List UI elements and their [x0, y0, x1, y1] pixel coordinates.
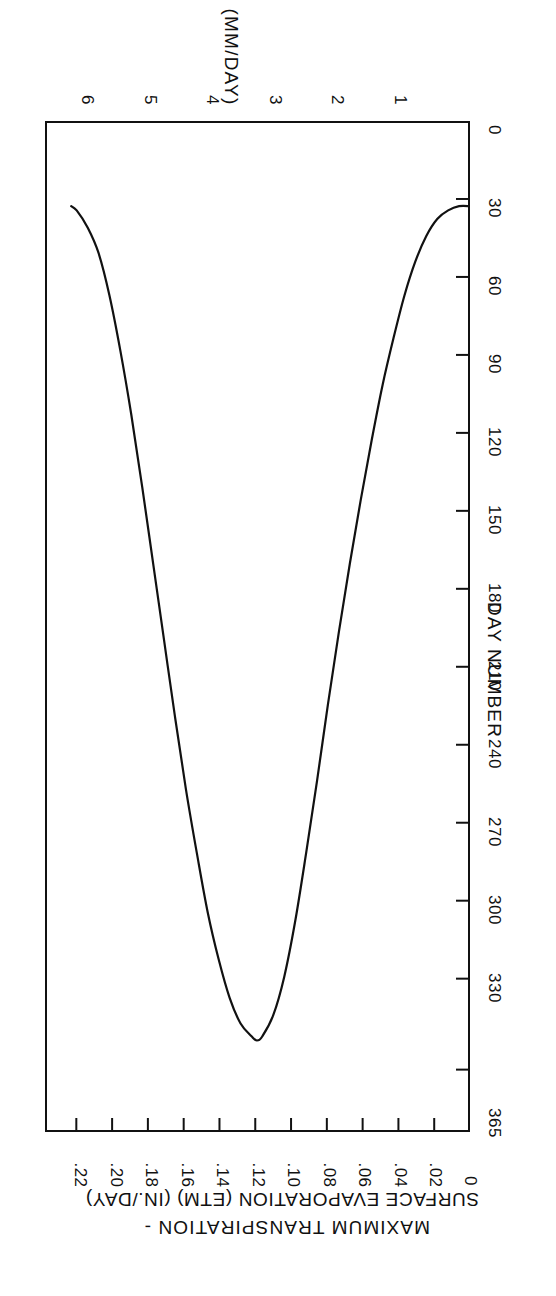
- value-tick-label: .10: [283, 1162, 303, 1187]
- value-tick-label: .18: [141, 1162, 161, 1187]
- rotated-figure-container: 0 .02 .04 .06 .08 .10 .12 .14 .16 .18 .2…: [0, 0, 556, 1296]
- value-tick-label: 0: [460, 1176, 480, 1186]
- chart-figure: 0 .02 .04 .06 .08 .10 .12 .14 .16 .18 .2…: [0, 0, 556, 1296]
- day-tick-label: 60: [484, 276, 504, 296]
- day-tick-label: 0: [484, 125, 504, 135]
- day-tick-label: 365: [484, 1108, 504, 1138]
- day-axis-title: DAY NUMBER: [483, 585, 505, 755]
- mm-tick-label: 5: [140, 95, 160, 105]
- value-axis-ticks: [76, 1118, 434, 1132]
- value-tick-label: .14: [212, 1162, 232, 1187]
- mm-tick-label: 1: [390, 95, 410, 105]
- mm-per-day-unit-title: (MM/DAY): [220, 9, 242, 106]
- value-tick-label: .08: [319, 1162, 339, 1187]
- day-tick-label: 90: [484, 354, 504, 374]
- day-tick-label: 30: [484, 198, 504, 218]
- day-tick-label: 330: [484, 973, 504, 1003]
- value-tick-label: .02: [425, 1162, 445, 1187]
- value-tick-label: .12: [248, 1162, 268, 1187]
- value-axis-title-line1: MAXIMUM TRANSPIRATION -: [144, 1216, 430, 1238]
- mm-tick-label: 6: [77, 95, 97, 105]
- etm-curve: [71, 206, 470, 1041]
- value-tick-label: .06: [354, 1162, 374, 1187]
- day-tick-label: 300: [484, 895, 504, 925]
- value-tick-label: .04: [390, 1162, 410, 1187]
- value-tick-label: .16: [177, 1162, 197, 1187]
- value-axis-title-line2: SURFACE EVAPORATION (ETM) (IN./DAY): [85, 1188, 479, 1210]
- day-tick-label: 270: [484, 817, 504, 847]
- mm-tick-label: 2: [327, 95, 347, 105]
- mm-tick-label: 3: [265, 95, 285, 105]
- day-axis-ticks: [456, 199, 470, 1070]
- value-tick-label: .22: [70, 1162, 90, 1187]
- value-tick-label: .20: [106, 1162, 126, 1187]
- day-tick-label: 120: [484, 427, 504, 457]
- plot-canvas: [45, 121, 470, 1132]
- day-tick-label: 150: [484, 505, 504, 535]
